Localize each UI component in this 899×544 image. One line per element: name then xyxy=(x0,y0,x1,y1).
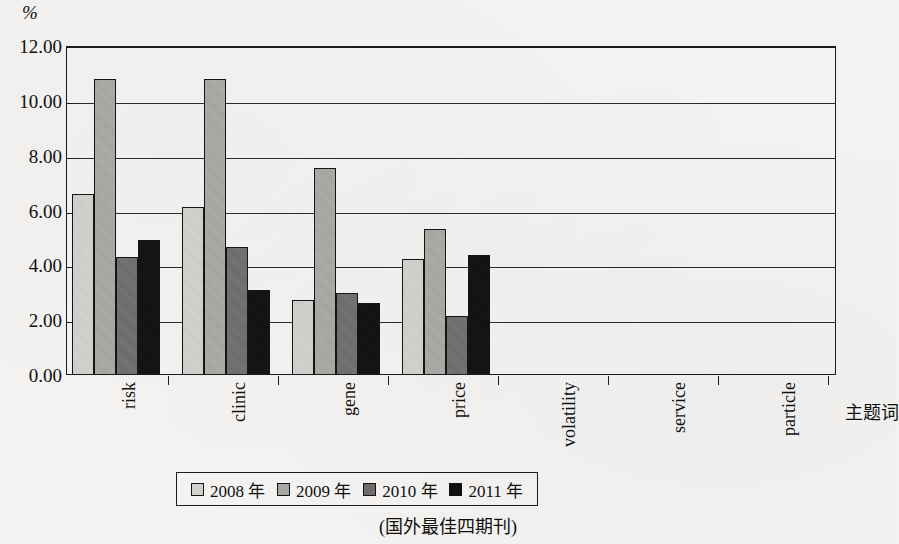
y-axis-tick-label: 4.00 xyxy=(2,256,62,275)
bar-group xyxy=(292,48,380,374)
x-axis-category-label: gene xyxy=(339,382,360,416)
legend-label: 2010 年 xyxy=(382,477,437,502)
x-axis-tick-mark xyxy=(278,376,279,385)
bar-group xyxy=(402,48,490,374)
figure-caption: (国外最佳四期刊) xyxy=(0,512,896,538)
y-axis-tick-label: 0.00 xyxy=(2,366,62,385)
legend-swatch xyxy=(449,483,462,496)
x-axis-category-label: price xyxy=(449,382,470,418)
x-axis-tick-mark xyxy=(498,376,499,385)
x-axis-tick-mark xyxy=(718,376,719,385)
bar-groups xyxy=(67,48,835,374)
bar xyxy=(468,255,490,374)
legend-item: 2008 年 xyxy=(191,477,265,502)
bar xyxy=(358,303,380,374)
bar xyxy=(336,293,358,374)
bar xyxy=(226,247,248,374)
bar-group xyxy=(512,48,600,374)
y-axis-tick-label: 2.00 xyxy=(2,311,62,330)
bar xyxy=(204,79,226,374)
legend-label: 2011 年 xyxy=(468,477,523,502)
legend-item: 2011 年 xyxy=(449,477,523,502)
bar-group xyxy=(182,48,270,374)
x-axis-title: 主题词 xyxy=(845,398,899,424)
y-axis-tick-label: 10.00 xyxy=(2,91,62,110)
bar xyxy=(402,259,424,374)
bar xyxy=(292,300,314,374)
legend-swatch xyxy=(191,483,204,496)
y-axis-tick-labels: 0.002.004.006.008.0010.0012.00 xyxy=(0,0,62,544)
bar-group xyxy=(732,48,820,374)
legend-item: 2010 年 xyxy=(363,477,437,502)
legend-label: 2008 年 xyxy=(210,477,265,502)
y-axis-tick-label: 12.00 xyxy=(2,37,62,56)
x-axis-tick-mark xyxy=(828,376,829,385)
bar xyxy=(138,240,160,374)
bar-group xyxy=(72,48,160,374)
x-axis-category-label: service xyxy=(669,382,690,433)
legend-label: 2009 年 xyxy=(296,477,351,502)
x-axis-tick-mark xyxy=(608,376,609,385)
y-axis-tick-label: 8.00 xyxy=(2,146,62,165)
x-axis-category-label: risk xyxy=(119,382,140,409)
legend-item: 2009 年 xyxy=(277,477,351,502)
bar xyxy=(314,168,336,374)
x-axis-category-label: particle xyxy=(779,382,800,436)
bar xyxy=(248,290,270,374)
x-axis-tick-mark xyxy=(388,376,389,385)
bar xyxy=(446,316,468,374)
plot-area xyxy=(66,46,836,375)
bar xyxy=(72,194,94,374)
legend: 2008 年2009 年2010 年2011 年 xyxy=(176,472,538,506)
legend-swatch xyxy=(363,483,376,496)
bar xyxy=(424,229,446,374)
x-axis-category-label: clinic xyxy=(229,382,250,422)
bar xyxy=(116,257,138,374)
bar xyxy=(94,79,116,374)
x-axis-category-label: volatility xyxy=(559,382,580,447)
x-axis-tick-mark xyxy=(168,376,169,385)
bar-group xyxy=(622,48,710,374)
bar xyxy=(182,207,204,374)
y-axis-tick-label: 6.00 xyxy=(2,201,62,220)
legend-swatch xyxy=(277,483,290,496)
